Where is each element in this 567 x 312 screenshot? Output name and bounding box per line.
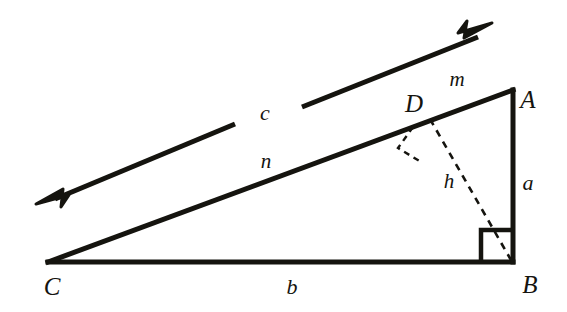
vertex-label-C: C	[44, 274, 61, 299]
arrow-line-segment-lower	[55, 124, 235, 199]
segment-label-m: m	[449, 69, 464, 90]
geometry-figure	[0, 0, 567, 312]
side-label-b: b	[287, 276, 298, 298]
altitude-db-line	[430, 119, 511, 260]
arrow-line-label-c: c	[260, 102, 270, 124]
vertex-label-B: B	[522, 272, 537, 297]
diagram-canvas: A B C D a b n m h c	[0, 0, 567, 312]
altitude-label-h: h	[444, 171, 455, 192]
vertex-label-A: A	[520, 87, 535, 112]
arrowhead-left-icon	[36, 189, 69, 207]
side-label-a: a	[523, 172, 534, 194]
arrowhead-right-icon	[458, 21, 492, 38]
altitude-db	[430, 119, 511, 260]
segment-label-n: n	[261, 151, 272, 172]
vertex-label-D: D	[405, 91, 423, 116]
